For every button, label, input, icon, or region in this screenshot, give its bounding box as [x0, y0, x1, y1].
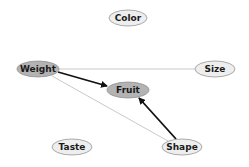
- node-size[interactable]: Size: [195, 61, 235, 77]
- node-shape[interactable]: Shape: [162, 139, 202, 155]
- node-size-label: Size: [205, 64, 226, 74]
- graph-canvas: Color Weight Size Fruit Taste Shape: [0, 0, 249, 167]
- node-color-label: Color: [115, 13, 142, 23]
- node-fruit[interactable]: Fruit: [107, 82, 149, 98]
- node-taste[interactable]: Taste: [52, 139, 92, 155]
- node-taste-label: Taste: [59, 142, 86, 152]
- node-shape-label: Shape: [166, 142, 198, 152]
- node-fruit-label: Fruit: [116, 85, 141, 95]
- node-color[interactable]: Color: [109, 10, 147, 26]
- edge-shape-to-fruit: [139, 98, 176, 139]
- node-weight-label: Weight: [20, 64, 57, 74]
- node-weight[interactable]: Weight: [17, 61, 59, 77]
